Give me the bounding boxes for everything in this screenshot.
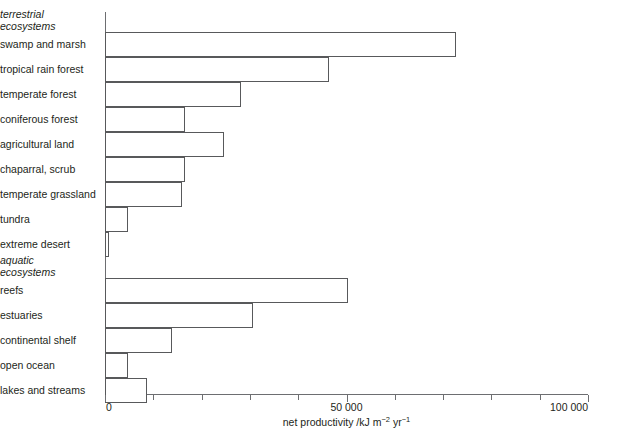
category-label-agricultural-land: agricultural land (0, 138, 100, 150)
x-tick-90000 (540, 395, 541, 400)
bar-chaparral-scrub (105, 157, 185, 182)
group-heading-terrestrial-line1: terrestrial (0, 8, 44, 20)
category-label-swamp-and-marsh: swamp and marsh (0, 38, 100, 50)
x-tick-label-0: 0 (106, 401, 112, 413)
category-label-temperate-forest: temperate forest (0, 88, 100, 100)
bar-temperate-forest (105, 82, 241, 107)
category-label-lakes-and-streams: lakes and streams (0, 384, 100, 396)
category-label-open-ocean: open ocean (0, 359, 100, 371)
category-label-temperate-grassland: temperate grassland (0, 188, 100, 200)
category-label-tundra: tundra (0, 213, 100, 225)
x-axis-title-text: net productivity /kJ m (283, 416, 382, 428)
bar-lakes-and-streams (105, 378, 147, 403)
x-axis-title-exponent-1: −2 (381, 415, 390, 424)
x-axis-title-text-2: yr (390, 416, 402, 428)
category-label-coniferous-forest: coniferous forest (0, 113, 100, 125)
category-label-chaparral-scrub: chaparral, scrub (0, 163, 100, 175)
x-tick-10000 (153, 395, 154, 400)
category-label-reefs: reefs (0, 284, 100, 296)
x-tick-label-100000: 100 000 (550, 401, 588, 413)
plot-area (105, 12, 588, 395)
group-heading-aquatic-line2: ecosystems (0, 266, 100, 278)
bar-agricultural-land (105, 132, 224, 157)
group-heading-terrestrial: terrestrial ecosystems (0, 8, 100, 32)
group-heading-aquatic: aquatic ecosystems (0, 254, 100, 278)
x-tick-70000 (443, 395, 444, 400)
x-tick-100000 (588, 395, 589, 402)
category-label-estuaries: estuaries (0, 309, 100, 321)
bar-temperate-grassland (105, 182, 182, 207)
group-heading-terrestrial-line2: ecosystems (0, 20, 100, 32)
net-productivity-bar-chart: terrestrial ecosystems swamp and marsh t… (0, 0, 622, 440)
x-tick-30000 (250, 395, 251, 400)
x-tick-40000 (298, 395, 299, 400)
x-tick-80000 (491, 395, 492, 400)
bar-extreme-desert (105, 232, 109, 257)
bar-tundra (105, 207, 128, 232)
bar-reefs (105, 278, 348, 303)
group-heading-aquatic-line1: aquatic (0, 254, 34, 266)
x-axis-title-exponent-2: −1 (402, 415, 411, 424)
category-label-continental-shelf: continental shelf (0, 334, 100, 346)
x-tick-60000 (395, 395, 396, 400)
bar-estuaries (105, 303, 253, 328)
x-tick-20000 (202, 395, 203, 400)
bar-open-ocean (105, 353, 128, 378)
x-axis-title: net productivity /kJ m−2 yr−1 (105, 416, 588, 428)
x-tick-label-50000: 50 000 (330, 401, 362, 413)
category-label-extreme-desert: extreme desert (0, 238, 100, 250)
bar-continental-shelf (105, 328, 172, 353)
bar-tropical-rain-forest (105, 57, 329, 82)
bar-swamp-and-marsh (105, 32, 456, 57)
category-label-tropical-rain-forest: tropical rain forest (0, 63, 100, 75)
bar-coniferous-forest (105, 107, 185, 132)
